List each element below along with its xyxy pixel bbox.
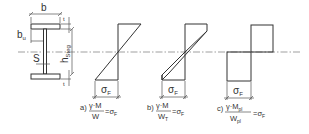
caption-b-rhs: =σF: [172, 107, 184, 117]
caption-a-rhs: =σF: [105, 107, 117, 117]
caption-a-denominator: W: [92, 112, 100, 121]
sigma-f-label-b: σF: [168, 84, 178, 96]
stress-block-compression: [227, 52, 251, 81]
caption-c-numerator: γ·Mpl: [226, 102, 242, 112]
label-b-u: bu: [17, 29, 26, 41]
label-t-bottom: t: [63, 81, 65, 87]
caption-a-numerator: γ·M: [89, 101, 102, 110]
label-b: b: [41, 2, 47, 13]
svg-text:hSteg: hSteg: [59, 45, 71, 63]
stress-diagram-a: σF a) γ·M W =σF: [80, 24, 141, 121]
caption-b-denominator: WT: [158, 112, 168, 122]
caption-c-denominator: Wpl: [230, 114, 241, 124]
stress-block-tension: [251, 25, 273, 52]
sigma-f-label-a: σF: [101, 84, 111, 96]
stress-distribution-figure: b t t hSteg bu S σF: [0, 0, 309, 134]
top-flange: [31, 24, 60, 29]
label-h-steg: hSteg: [59, 45, 71, 63]
web: [44, 29, 47, 74]
caption-b-numerator: γ·M: [156, 101, 169, 110]
label-s: S: [33, 53, 40, 64]
i-beam-cross-section: b t t hSteg bu S: [17, 2, 74, 87]
stress-diagram-b: σF b) γ·M WT =σF: [147, 24, 207, 122]
caption-a-prefix: a): [80, 103, 87, 112]
caption-c-prefix: c): [217, 104, 224, 113]
caption-c-rhs: =σF: [253, 109, 265, 119]
sigma-f-label-c: σF: [233, 85, 243, 97]
stress-diagram-c: σF c) γ·Mpl Wpl =σF: [217, 25, 273, 124]
label-t-top: t: [63, 16, 65, 22]
caption-b-prefix: b): [147, 103, 154, 112]
bottom-flange: [31, 74, 60, 79]
